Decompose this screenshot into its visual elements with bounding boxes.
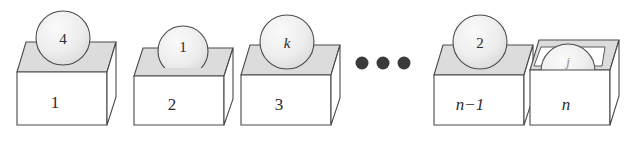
figure-container: 4 1 1 2 [0,0,628,141]
box-2-front-face [134,76,224,125]
box-group-n-minus-1: 2 n−1 [434,15,533,125]
ellipsis-dot-3 [398,57,411,70]
ball-on-box-3: k [260,15,314,69]
box-group-1: 4 1 [17,11,116,125]
ball-label-3: k [284,35,291,51]
ball-on-box-n-minus-1: 2 [453,15,507,69]
ball-label-1: 4 [59,31,67,47]
ball-on-box-1: 4 [36,11,90,65]
ellipsis [356,57,411,70]
box-group-3: k 3 [241,15,340,125]
ellipsis-dot-2 [377,57,390,70]
box-label-1: 1 [51,93,60,112]
ball-label-n-minus-1: 2 [476,35,484,51]
box-label-3: 3 [275,95,284,114]
box-group-2: 1 2 [134,26,233,125]
box-3-front-face [241,75,331,125]
boxes-and-balls-diagram: 4 1 1 2 [0,0,628,141]
box-1-front-face [17,72,107,125]
box-label-n-minus-1: n−1 [456,95,484,114]
box-label-2: 2 [168,95,177,114]
ball-label-2: 1 [179,39,187,55]
box-label-n: n [562,95,571,114]
ellipsis-dot-1 [356,57,369,70]
box-group-n: j n [530,40,619,125]
